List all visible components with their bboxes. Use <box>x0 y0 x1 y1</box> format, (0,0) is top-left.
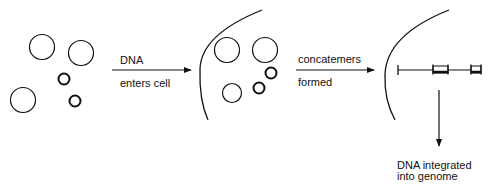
panel-extracellular-dna <box>11 35 94 113</box>
step-arrow-1: DNA enters cell <box>112 54 191 89</box>
plasmid-circle-large <box>30 35 55 60</box>
step2-label-top: concatemers <box>298 53 361 65</box>
step1-label-bottom: enters cell <box>120 77 170 89</box>
plasmid-circle-small <box>266 68 277 79</box>
plasmid-circle-large <box>223 84 242 103</box>
step2-label-bottom: formed <box>298 76 332 88</box>
insert-block <box>433 65 448 75</box>
diagram-canvas: DNA enters cell concatemers formed <box>0 0 491 186</box>
insert-block <box>471 65 481 75</box>
result-label: DNA integrated into genome <box>397 159 472 182</box>
cell-membrane-arc <box>200 10 262 120</box>
plasmid-circle-small <box>59 74 70 85</box>
plasmid-circle-small <box>70 96 81 107</box>
diagram-svg: DNA enters cell concatemers formed <box>0 0 491 186</box>
panel-concatemer-in-cell <box>385 10 481 146</box>
plasmid-circle-large <box>11 88 36 113</box>
plasmid-circle-large <box>69 41 94 66</box>
step1-label-top: DNA <box>120 54 144 66</box>
plasmid-circle-large <box>253 38 278 63</box>
panel-dna-inside-cell <box>200 10 278 120</box>
result-line-2: into genome <box>397 170 458 182</box>
plasmid-circle-small <box>254 83 265 94</box>
plasmid-circle-large <box>215 38 240 63</box>
step-arrow-2: concatemers formed <box>296 53 374 88</box>
